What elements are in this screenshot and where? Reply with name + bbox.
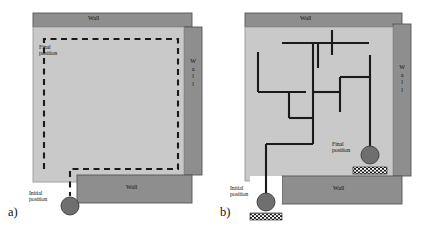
wall-top-label: Wall bbox=[88, 15, 99, 22]
panel-b: Wall W a l l Wall Final position Initial… bbox=[214, 0, 429, 236]
figure-container: Wall W a l l Wall Final position Initial… bbox=[0, 0, 429, 236]
final-position-label: Final position bbox=[332, 141, 350, 153]
wall-right-rect bbox=[393, 24, 411, 176]
panel-a: Wall W a l l Wall Final position Initial… bbox=[0, 0, 215, 236]
panel-b-graphic bbox=[214, 0, 429, 236]
initial-position-marker bbox=[61, 197, 79, 215]
wall-bottom-label: Wall bbox=[333, 185, 344, 192]
wall-right-label: W a l l bbox=[397, 63, 407, 93]
initial-position-marker bbox=[257, 193, 275, 211]
wall-top-rect bbox=[33, 13, 192, 27]
final-position-marker bbox=[361, 146, 379, 164]
initial-position-label: Initial position bbox=[29, 190, 47, 202]
wall-top-rect bbox=[245, 13, 402, 27]
wall-right-rect bbox=[184, 27, 202, 175]
wall-bottom-label: Wall bbox=[126, 184, 137, 191]
panel-b-label: b) bbox=[220, 206, 230, 219]
panel-a-label: a) bbox=[8, 206, 18, 219]
wall-right-label: W a l l bbox=[188, 57, 198, 87]
initial-position-hatch bbox=[250, 213, 282, 220]
final-position-hatch bbox=[353, 167, 387, 174]
wall-top-label: Wall bbox=[300, 15, 311, 22]
final-position-label: Final position bbox=[39, 44, 57, 56]
initial-position-label: Initial position bbox=[230, 185, 248, 197]
